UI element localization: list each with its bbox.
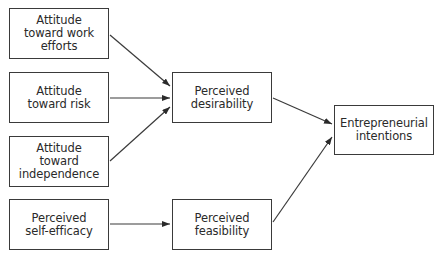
arrow-independence-to-desirability bbox=[110, 107, 170, 161]
arrow-desirability-to-intentions bbox=[273, 98, 332, 124]
node-label: Perceived feasibility bbox=[195, 212, 250, 238]
node-attitude-risk: Attitude toward risk bbox=[9, 72, 109, 123]
node-label: Entrepreneurial intentions bbox=[340, 117, 428, 143]
node-perceived-feasibility: Perceived feasibility bbox=[172, 199, 272, 250]
node-perceived-self-efficacy: Perceived self-efficacy bbox=[9, 199, 109, 250]
node-entrepreneurial-intentions: Entrepreneurial intentions bbox=[334, 105, 434, 155]
arrow-work_efforts-to-desirability bbox=[110, 35, 170, 86]
node-attitude-work-efforts: Attitude toward work efforts bbox=[9, 8, 109, 59]
node-label: Attitude toward risk bbox=[28, 85, 91, 111]
node-label: Perceived desirability bbox=[191, 85, 253, 111]
arrow-feasibility-to-intentions bbox=[273, 137, 332, 222]
entrepreneurial-intentions-diagram: Attitude toward work efforts Attitude to… bbox=[0, 0, 439, 261]
node-label: Attitude toward independence bbox=[19, 142, 99, 181]
node-label: Attitude toward work efforts bbox=[24, 14, 94, 53]
node-perceived-desirability: Perceived desirability bbox=[172, 72, 272, 123]
node-label: Perceived self-efficacy bbox=[25, 212, 92, 238]
node-attitude-independence: Attitude toward independence bbox=[9, 136, 109, 187]
